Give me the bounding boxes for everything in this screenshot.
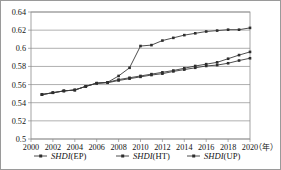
legend-label-shdiht: SHDI(HT) <box>133 151 170 161</box>
y-tick-label: 0.56 <box>12 81 26 90</box>
x-tick-label: 2008 <box>110 143 126 152</box>
y-tick-label: 0.6 <box>16 44 26 53</box>
chart-legend: SHDI(EP)SHDI(HT)SHDI(UP) <box>34 151 240 161</box>
y-tick-label: 0.52 <box>12 117 26 126</box>
data-point-marker <box>117 78 120 81</box>
legend-label-plain: (HT) <box>153 151 170 161</box>
data-point-marker <box>63 90 66 93</box>
x-axis-unit: （年） <box>254 142 278 152</box>
data-point-marker <box>194 65 197 68</box>
data-point-marker <box>128 66 131 69</box>
data-point-marker <box>205 63 208 66</box>
chart-container: 0.50.520.540.560.580.60.620.64 200020022… <box>0 0 281 170</box>
y-tick-label: 0.62 <box>12 26 26 35</box>
data-point-marker <box>227 57 230 60</box>
y-tick-label: 0.58 <box>12 62 26 71</box>
data-point-marker <box>238 54 241 57</box>
line-chart: 0.50.520.540.560.580.60.620.64 200020022… <box>1 1 281 170</box>
y-tick-marks <box>28 12 31 139</box>
y-tick-label: 0.54 <box>12 99 26 108</box>
legend-label-shdiep: SHDI(EP) <box>51 151 86 161</box>
data-point-marker <box>183 67 186 70</box>
legend-swatch-marker <box>192 155 195 158</box>
x-tick-label: 2006 <box>89 143 105 152</box>
data-point-marker <box>216 64 219 67</box>
data-point-marker <box>249 27 252 30</box>
x-axis-unit-label: （年） <box>254 142 278 152</box>
series-line <box>42 52 250 95</box>
legend-label-shdiup: SHDI(UP) <box>204 151 240 161</box>
data-point-marker <box>95 82 98 85</box>
data-point-marker <box>84 85 87 88</box>
data-point-marker <box>172 37 175 40</box>
data-point-marker <box>227 28 230 31</box>
legend-label-italic: SHDI <box>204 151 225 161</box>
data-point-marker <box>150 44 153 47</box>
y-axis-tick-labels: 0.50.520.540.560.580.60.620.64 <box>12 8 26 144</box>
x-tick-marks <box>31 139 250 142</box>
x-tick-label: 2000 <box>23 143 39 152</box>
y-tick-label: 0.64 <box>12 8 26 17</box>
data-point-marker <box>41 93 44 96</box>
data-point-marker <box>172 69 175 72</box>
x-tick-label: 2014 <box>176 143 192 152</box>
data-point-marker <box>161 39 164 42</box>
data-point-marker <box>227 62 230 65</box>
legend-label-italic: SHDI <box>133 151 154 161</box>
data-point-marker <box>216 29 219 32</box>
data-point-marker <box>106 81 109 84</box>
data-point-marker <box>161 71 164 74</box>
data-point-marker <box>249 51 252 54</box>
data-point-marker <box>74 89 77 92</box>
data-point-marker <box>128 76 131 79</box>
data-point-marker <box>194 32 197 35</box>
data-series-group <box>41 27 252 96</box>
legend-swatch-marker <box>121 155 124 158</box>
series-shdiup <box>41 51 252 96</box>
legend-label-plain: (EP) <box>71 151 87 161</box>
data-point-marker <box>150 73 153 76</box>
data-point-marker <box>52 91 55 94</box>
data-point-marker <box>117 75 120 78</box>
data-point-marker <box>249 57 252 60</box>
data-point-marker <box>139 75 142 78</box>
data-point-marker <box>205 30 208 33</box>
legend-label-plain: (UP) <box>224 151 241 161</box>
data-point-marker <box>139 45 142 48</box>
legend-swatch-marker <box>39 155 42 158</box>
data-point-marker <box>238 28 241 31</box>
series-line <box>42 58 250 94</box>
legend-label-italic: SHDI <box>51 151 72 161</box>
data-point-marker <box>183 34 186 37</box>
data-point-marker <box>238 59 241 62</box>
data-point-marker <box>216 61 219 64</box>
